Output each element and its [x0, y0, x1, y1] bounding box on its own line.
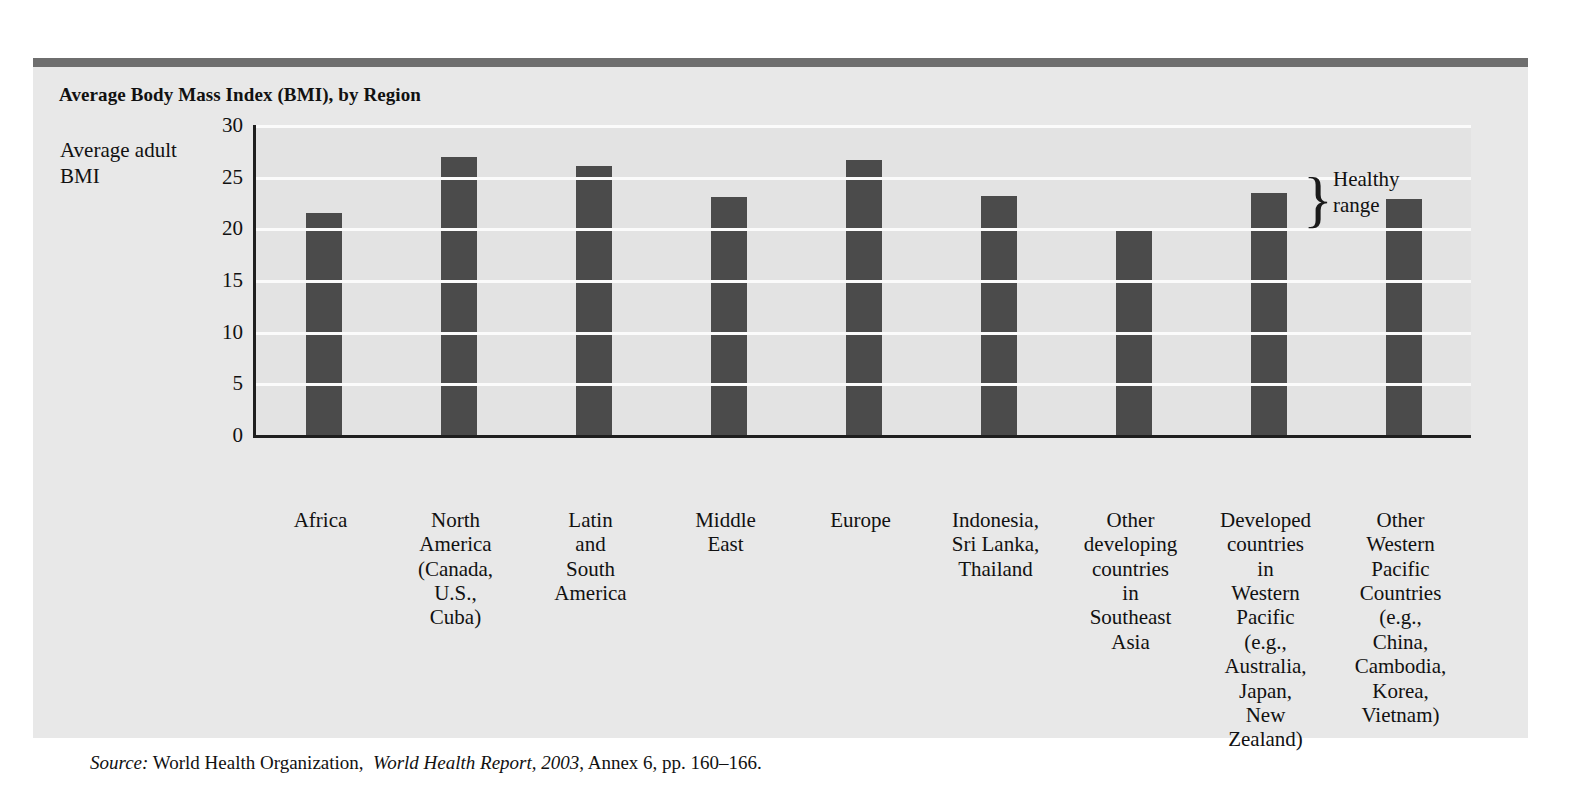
bar [846, 160, 882, 435]
y-tick-label: 10 [222, 319, 243, 344]
x-category-label-line: Sri Lanka, [930, 532, 1061, 556]
gridline [256, 383, 1471, 386]
gridline [256, 332, 1471, 335]
gridline [256, 280, 1471, 283]
x-category-label-line: Indonesia, [930, 508, 1061, 532]
gridline [256, 125, 1471, 128]
chart-panel: Average Body Mass Index (BMI), by Region… [33, 58, 1528, 738]
x-category-label-line: U.S., [390, 581, 521, 605]
source-label: Source: [90, 752, 148, 773]
x-category-label-line: China, [1335, 630, 1466, 654]
x-category-label-line: developing [1065, 532, 1196, 556]
x-category-label-line: and [525, 532, 656, 556]
x-category-label-line: countries [1200, 532, 1331, 556]
y-axis-label: Average adult BMI [60, 138, 190, 189]
x-category-label: OtherdevelopingcountriesinSoutheastAsia [1063, 508, 1198, 752]
bar [576, 166, 612, 435]
healthy-range-line2: range [1333, 192, 1399, 218]
x-category-label: DevelopedcountriesinWesternPacific(e.g.,… [1198, 508, 1333, 752]
y-tick-label: 5 [233, 371, 244, 396]
x-category-label-line: North [390, 508, 521, 532]
source-rest: , Annex 6, pp. 160–166. [579, 752, 762, 773]
x-category-label: NorthAmerica(Canada,U.S.,Cuba) [388, 508, 523, 752]
panel-top-rule [33, 58, 1528, 67]
x-category-label-line: Zealand) [1200, 727, 1331, 751]
x-category-label-line: Vietnam) [1335, 703, 1466, 727]
x-category-label-line: Other [1065, 508, 1196, 532]
y-tick-label: 25 [222, 164, 243, 189]
x-category-label-line: Thailand [930, 557, 1061, 581]
x-category-label-line: Korea, [1335, 679, 1466, 703]
bar [441, 157, 477, 435]
x-category-label-line: New [1200, 703, 1331, 727]
x-category-labels: AfricaNorthAmerica(Canada,U.S.,Cuba)Lati… [253, 508, 1468, 752]
gridline [256, 177, 1471, 180]
x-category-label-line: Asia [1065, 630, 1196, 654]
x-category-label-line: Europe [795, 508, 926, 532]
bar [306, 213, 342, 435]
healthy-range-text: Healthy range [1333, 166, 1399, 219]
x-category-label-line: South [525, 557, 656, 581]
x-category-label-line: Pacific [1200, 605, 1331, 629]
y-tick-label: 30 [222, 113, 243, 138]
figure-page: Average Body Mass Index (BMI), by Region… [0, 0, 1573, 795]
x-category-label-line: Australia, [1200, 654, 1331, 678]
healthy-range-line1: Healthy [1333, 166, 1399, 192]
plot-area [253, 125, 1471, 438]
x-category-label-line: (Canada, [390, 557, 521, 581]
x-category-label-line: Pacific [1335, 557, 1466, 581]
bar [981, 196, 1017, 435]
x-category-label: Europe [793, 508, 928, 752]
x-category-label-line: America [525, 581, 656, 605]
bar [711, 197, 747, 435]
x-category-label-line: Western [1200, 581, 1331, 605]
x-category-label-line: Japan, [1200, 679, 1331, 703]
x-category-label-line: Countries [1335, 581, 1466, 605]
healthy-range-annotation: } Healthy range [1303, 177, 1463, 230]
x-category-label: Africa [253, 508, 388, 752]
x-category-label-line: East [660, 532, 791, 556]
x-category-label: Indonesia,Sri Lanka,Thailand [928, 508, 1063, 752]
x-category-label-line: Cuba) [390, 605, 521, 629]
x-category-label-line: Africa [255, 508, 386, 532]
y-tick-labels: 051015202530 [205, 125, 243, 443]
x-category-label-line: in [1200, 557, 1331, 581]
x-category-label-line: Latin [525, 508, 656, 532]
bar [1386, 199, 1422, 435]
chart-title: Average Body Mass Index (BMI), by Region [59, 84, 421, 106]
x-category-label: MiddleEast [658, 508, 793, 752]
cutoff-headline [60, 0, 1060, 6]
x-category-label-line: Developed [1200, 508, 1331, 532]
gridline [256, 228, 1471, 231]
x-category-label-line: Southeast [1065, 605, 1196, 629]
x-category-label-line: Other [1335, 508, 1466, 532]
source-report: World Health Report, 2003 [373, 752, 579, 773]
brace-icon: } [1303, 168, 1333, 230]
x-category-label-line: in [1065, 581, 1196, 605]
x-category-label-line: America [390, 532, 521, 556]
x-category-label-line: countries [1065, 557, 1196, 581]
x-category-label-line: Cambodia, [1335, 654, 1466, 678]
source-organization: World Health Organization, [153, 752, 364, 773]
x-category-label: LatinandSouthAmerica [523, 508, 658, 752]
x-category-label-line: Western [1335, 532, 1466, 556]
x-category-label-line: Middle [660, 508, 791, 532]
y-tick-label: 15 [222, 268, 243, 293]
x-category-label-line: (e.g., [1200, 630, 1331, 654]
x-category-label-line: (e.g., [1335, 605, 1466, 629]
x-category-label: OtherWesternPacificCountries(e.g.,China,… [1333, 508, 1468, 752]
y-tick-label: 20 [222, 216, 243, 241]
y-tick-label: 0 [233, 423, 244, 448]
source-note: Source: World Health Organization, World… [90, 752, 762, 774]
